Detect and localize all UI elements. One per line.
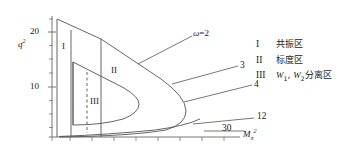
leader-lines <box>138 36 254 131</box>
contour-label-3: 3 <box>240 61 245 71</box>
contour-label-omega-2: ω=2 <box>193 29 209 38</box>
x-minor-ticks <box>52 137 224 141</box>
legend-key-II: II <box>256 55 276 65</box>
legend: I 共振区 II 标度区 III W1, W2分离区 <box>256 37 332 84</box>
legend-key-I: I <box>256 39 276 49</box>
legend-w2-symbol: W <box>293 70 301 80</box>
y-tick-label-10: 10 <box>30 82 39 91</box>
region-marker-III: III <box>90 97 99 106</box>
contour-curves <box>57 19 200 137</box>
legend-key-III: III <box>256 70 276 80</box>
leader-omega-2 <box>138 36 192 64</box>
figure-phase-diagram: q2 Mπ2 20 10 I II III ω=2 3 4 12 30 I 共振… <box>0 0 364 153</box>
region-marker-II: II <box>111 66 117 75</box>
region-marker-I: I <box>62 42 65 51</box>
legend-row-III: III W1, W2分离区 <box>256 68 332 81</box>
leader-4 <box>184 85 252 102</box>
leader-3 <box>172 66 238 84</box>
contour-label-12: 12 <box>257 112 267 122</box>
y-axis-label: q2 <box>18 40 26 49</box>
legend-text-I: 共振区 <box>276 37 303 50</box>
legend-text-II: 标度区 <box>276 53 303 66</box>
contour-label-30: 30 <box>222 124 232 134</box>
legend-text-III: W1, W2分离区 <box>276 68 332 81</box>
x-axis-label: Mπ2 <box>243 130 257 139</box>
legend-row-II: II 标度区 <box>256 53 332 66</box>
legend-w1-symbol: W <box>276 70 284 80</box>
y-tick-label-20: 20 <box>30 27 39 36</box>
curve-region-III <box>73 62 139 125</box>
legend-III-suffix: 分离区 <box>305 70 332 80</box>
legend-row-I: I 共振区 <box>256 37 332 50</box>
